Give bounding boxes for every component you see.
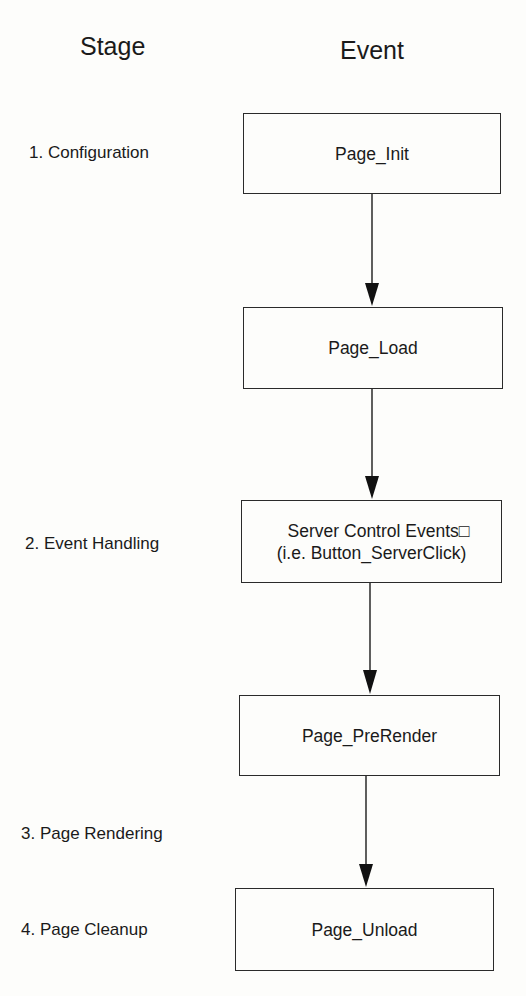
event-box-page-prerender: Page_PreRender xyxy=(239,695,500,776)
event-label: Page_Load xyxy=(328,337,418,359)
event-label: Page_PreRender xyxy=(302,725,437,747)
event-label: Server Control Events□ xyxy=(274,520,470,542)
event-box-server-control-events: Server Control Events□ (i.e. Button_Serv… xyxy=(241,500,502,583)
event-box-page-unload: Page_Unload xyxy=(235,888,494,971)
event-label: Page_Unload xyxy=(311,919,417,941)
event-box-page-load: Page_Load xyxy=(243,307,503,389)
event-sublabel: (i.e. Button_ServerClick) xyxy=(274,542,470,564)
event-label: Page_Init xyxy=(335,143,409,165)
event-box-page-init: Page_Init xyxy=(243,113,501,194)
